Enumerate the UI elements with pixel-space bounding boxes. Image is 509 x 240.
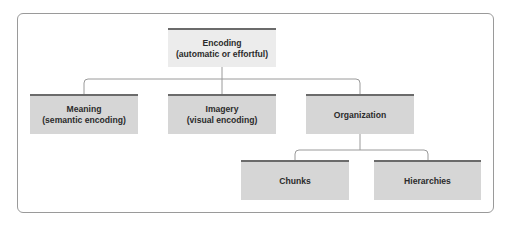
node-chunks: Chunks (241, 160, 349, 200)
node-imagery-subtitle: (visual encoding) (187, 115, 258, 126)
node-encoding-title: Encoding (176, 38, 268, 49)
node-organization: Organization (306, 94, 414, 134)
node-chunks-title: Chunks (279, 176, 311, 187)
node-hierarchies-title: Hierarchies (404, 176, 451, 187)
node-hierarchies: Hierarchies (374, 160, 481, 200)
node-meaning: Meaning (semantic encoding) (30, 94, 138, 134)
node-imagery-title: Imagery (187, 104, 258, 115)
node-imagery: Imagery (visual encoding) (168, 94, 276, 134)
node-meaning-subtitle: (semantic encoding) (42, 115, 126, 126)
node-encoding-subtitle: (automatic or effortful) (176, 49, 268, 60)
node-meaning-title: Meaning (42, 104, 126, 115)
node-encoding: Encoding (automatic or effortful) (168, 28, 276, 67)
node-organization-title: Organization (334, 110, 387, 121)
